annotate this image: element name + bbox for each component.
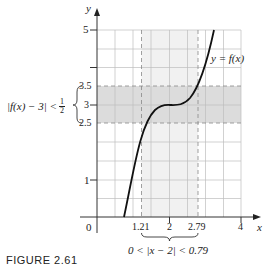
- y-axis-arrow-icon: [94, 8, 100, 16]
- fraction-denominator: 2: [60, 107, 64, 115]
- origin-label: 0: [86, 222, 92, 233]
- y-tick-2-5: 2.5: [79, 118, 92, 128]
- y-tick-5: 5: [83, 24, 89, 35]
- y-condition-text: |f(x) − 3| <: [7, 101, 57, 112]
- curve-label: y = f(x): [211, 53, 244, 64]
- figure-caption: FIGURE 2.61: [6, 254, 78, 266]
- x-tick-2-79: 2.79: [188, 222, 206, 232]
- x-tick-1-21: 1.21: [132, 222, 150, 232]
- y-tick-3: 3: [84, 100, 89, 110]
- x-interval-brace-icon: [142, 233, 199, 241]
- x-tick-4: 4: [238, 222, 243, 232]
- y-condition-fraction: 1 2: [59, 98, 65, 115]
- x-axis-arrow-icon: [253, 214, 261, 220]
- x-condition-label: 0 < |x − 2| < 0.79: [128, 245, 208, 256]
- y-tick-1: 1: [84, 175, 90, 186]
- x-tick-2: 2: [167, 222, 172, 232]
- y-tick-3-5: 3.5: [79, 81, 92, 91]
- y-condition-label: |f(x) − 3| < 1 2: [7, 98, 65, 115]
- x-axis-label: x: [257, 222, 262, 233]
- y-axis-label: y: [86, 3, 91, 14]
